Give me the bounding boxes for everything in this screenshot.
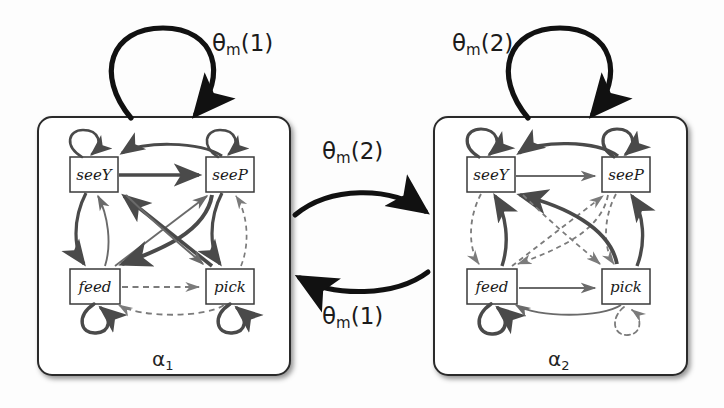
macro-state-alpha2[interactable]: [434, 28, 687, 375]
diagram-canvas: seeY seeP feed pick seeY seeP feed pick …: [0, 0, 724, 408]
alpha2-node-seeY[interactable]: [467, 157, 515, 192]
alpha2-node-pick[interactable]: [602, 269, 650, 304]
alpha1-node-seeY[interactable]: [70, 157, 118, 192]
theta-label-alpha2-to-alpha1: θm(1): [322, 305, 383, 331]
alpha2-self-loop-arrow: [508, 28, 610, 118]
inter-arrow-alpha2-to-alpha1: [300, 272, 428, 292]
alpha1-node-seeP[interactable]: [206, 157, 254, 192]
theta-label-alpha1-to-alpha2: θm(2): [322, 140, 383, 166]
alpha2-label: α2: [548, 349, 569, 372]
theta-label-alpha1-self-loop: θm(1): [212, 32, 273, 58]
alpha1-label: α1: [152, 349, 173, 372]
alpha2-node-seeP[interactable]: [602, 157, 650, 192]
alpha1-node-pick[interactable]: [206, 269, 254, 304]
alpha1-node-feed[interactable]: [70, 269, 120, 304]
inter-arrow-alpha1-to-alpha2: [295, 193, 425, 215]
alpha2-node-feed[interactable]: [467, 269, 517, 304]
macro-state-alpha1[interactable]: [38, 28, 290, 375]
theta-label-alpha2-self-loop: θm(2): [452, 32, 513, 58]
alpha1-self-loop-arrow: [111, 28, 213, 118]
diagram-svg: [0, 0, 724, 408]
